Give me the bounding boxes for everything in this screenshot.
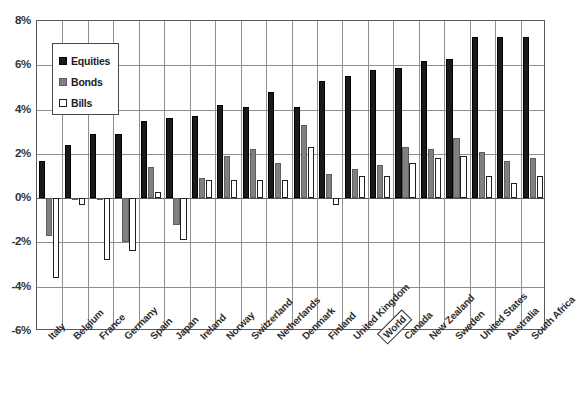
gridline-vertical [393, 21, 394, 329]
bar-equities [268, 92, 274, 198]
bar-equities [497, 37, 503, 199]
bar-equities [192, 116, 198, 198]
gridline-vertical [342, 21, 343, 329]
bar-bills [129, 198, 135, 251]
y-axis-tick-label: 6% [0, 58, 31, 70]
bar-bills [333, 198, 339, 205]
bar-bonds [224, 156, 230, 198]
bar-bonds [97, 198, 103, 200]
bar-bills [155, 192, 161, 199]
bar-bonds [402, 147, 408, 198]
gridline-vertical [292, 21, 293, 329]
bar-equities [166, 118, 172, 198]
bar-bonds [250, 149, 256, 198]
gridline-vertical [139, 21, 140, 329]
y-axis-tick-label: -2% [0, 235, 31, 247]
bar-equities [319, 81, 325, 198]
legend-item-bonds: Bonds [59, 71, 118, 92]
bar-equities [39, 161, 45, 199]
bar-bonds [530, 158, 536, 198]
gridline-vertical [444, 21, 445, 329]
gridline-vertical [215, 21, 216, 329]
bar-bonds [173, 198, 179, 225]
bar-bills [409, 163, 415, 198]
gridline-vertical [495, 21, 496, 329]
gridline-vertical [470, 21, 471, 329]
bar-bonds [122, 198, 128, 242]
gridline-vertical [419, 21, 420, 329]
bar-bonds [301, 125, 307, 198]
bar-bonds [199, 178, 205, 198]
bar-equities [345, 76, 351, 198]
bar-bonds [46, 198, 52, 236]
bar-bonds [148, 167, 154, 198]
bar-bills [308, 147, 314, 198]
gridline-vertical [317, 21, 318, 329]
bar-equities [90, 134, 96, 198]
gridline-vertical [266, 21, 267, 329]
bar-equities [395, 68, 401, 199]
x-axis-labels: ItalyBelgiumFranceGermanySpainJapanIrela… [0, 330, 553, 419]
legend-item-equities: Equities [59, 50, 118, 71]
legend-swatch-bills [59, 99, 67, 107]
bar-bonds [453, 138, 459, 198]
y-axis-tick-label: 2% [0, 147, 31, 159]
bar-equities [472, 37, 478, 199]
bar-bills [359, 176, 365, 198]
bar-bonds [72, 198, 78, 200]
bar-bonds [377, 165, 383, 198]
bar-bonds [504, 161, 510, 199]
chart-legend: Equities Bonds Bills [52, 43, 119, 115]
bar-bonds [428, 149, 434, 198]
legend-label-equities: Equities [71, 55, 110, 67]
bar-bills [79, 198, 85, 205]
legend-label-bonds: Bonds [71, 76, 103, 88]
y-axis-tick-label: 8% [0, 14, 31, 26]
bar-bills [206, 180, 212, 198]
bar-equities [446, 59, 452, 199]
y-axis-tick-label: 4% [0, 103, 31, 115]
legend-swatch-equities [59, 57, 67, 65]
bar-bills [257, 180, 263, 198]
bar-bills [180, 198, 186, 240]
bar-equities [294, 107, 300, 198]
gridline-vertical [368, 21, 369, 329]
bar-bills [460, 156, 466, 198]
bar-bills [282, 180, 288, 198]
bar-equities [523, 37, 529, 199]
gridline-vertical [241, 21, 242, 329]
bar-equities [115, 134, 121, 198]
y-axis-tick-label: -4% [0, 280, 31, 292]
y-axis-tick-label: 0% [0, 191, 31, 203]
bar-equities [141, 121, 147, 199]
bar-bonds [326, 174, 332, 198]
bar-equities [243, 107, 249, 198]
gridline-vertical [164, 21, 165, 329]
bar-bills [231, 180, 237, 198]
bar-bills [511, 183, 517, 199]
bar-bonds [352, 169, 358, 198]
bar-equities [421, 61, 427, 198]
legend-item-bills: Bills [59, 92, 118, 113]
bar-bills [104, 198, 110, 260]
bar-bills [384, 176, 390, 198]
gridline-vertical [521, 21, 522, 329]
bar-equities [65, 145, 71, 198]
legend-swatch-bonds [59, 78, 67, 86]
bar-bonds [275, 163, 281, 198]
bar-bills [435, 158, 441, 198]
bar-equities [370, 70, 376, 198]
bar-bills [53, 198, 59, 278]
bar-equities [217, 105, 223, 198]
gridline-vertical [190, 21, 191, 329]
bar-bills [537, 176, 543, 198]
bar-bills [486, 176, 492, 198]
legend-label-bills: Bills [71, 97, 92, 109]
bar-bonds [479, 152, 485, 199]
